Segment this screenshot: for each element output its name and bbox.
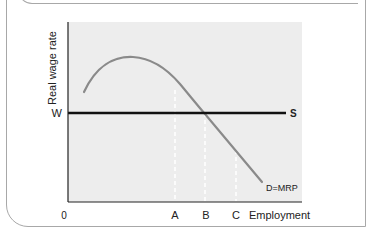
y-axis-label: Real wage rate <box>46 31 58 105</box>
x-axis-label: Employment <box>249 209 310 221</box>
wage-label: W <box>52 107 63 119</box>
x-tick-b: B <box>202 209 209 221</box>
x-tick-c: C <box>232 209 240 221</box>
demand-label: D=MRP <box>266 183 298 193</box>
supply-label: S <box>290 108 297 119</box>
x-tick-a: A <box>171 209 179 221</box>
origin-label: 0 <box>61 210 67 221</box>
